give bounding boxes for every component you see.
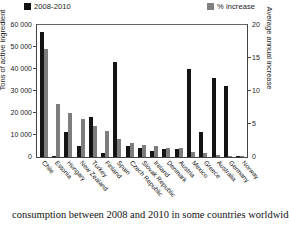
legend-item-tons: 2008-2010 [24,2,71,11]
bar-pct [105,131,109,157]
bar-groups [37,25,247,157]
bar-group [173,25,185,157]
bar-group [148,25,160,157]
bar-group [63,25,75,157]
y-axis-right-title: Average annual increase [265,0,273,107]
bar-pct [166,148,170,157]
legend-label-tons: 2008-2010 [34,2,71,11]
x-axis-labels: ChileEstoniaHungaryNew ZealandTurkeyFinl… [36,159,248,205]
bar-group [161,25,173,157]
bar-pct [203,153,207,157]
bar-pct [179,148,183,157]
bar-group [112,25,124,157]
bar-group [50,25,62,157]
y-tick-right-5: 5 [252,120,274,127]
legend-item-pct: % increase [207,2,255,11]
bar-group [136,25,148,157]
bar-pct [191,152,195,157]
bar-pct [216,155,220,157]
y-tick-left-20000: 20 000 [0,109,32,116]
bar-tons [224,86,228,157]
bar-group [87,25,99,157]
bar-pct [130,143,134,157]
bar-group [38,25,50,157]
bar-pct [240,156,244,157]
bar-group [210,25,222,157]
y-tickmark-right-5 [248,123,251,124]
y-tickmark-right-15 [248,57,251,58]
figure-caption: consumption between 2008 and 2010 in som… [12,208,284,221]
legend-label-pct: % increase [217,2,255,11]
chart-figure: 2008-2010 % increase 60 000 50 000 40 00… [0,0,289,200]
bar-pct [44,49,48,157]
bar-pct [56,104,60,157]
x-axis-label: Chile [41,159,56,175]
bar-tons [187,69,191,157]
chart-legend: 2008-2010 % increase [0,2,289,16]
bar-group [99,25,111,157]
legend-swatch-pct-icon [207,3,214,10]
bar-group [197,25,209,157]
bar-group [185,25,197,157]
bar-group [222,25,234,157]
bar-pct [68,113,72,157]
y-tick-left-10000: 10 000 [0,131,32,138]
y-axis-left-title: Tons of active ingredient [0,0,7,106]
plot-wrapper [36,24,248,158]
bar-pct [154,146,158,157]
y-tick-right-0: 0 [252,153,274,160]
legend-swatch-tons-icon [24,3,31,10]
bar-group [75,25,87,157]
bar-pct [228,156,232,157]
bar-pct [81,119,85,157]
y-tick-left-0: 0 [0,153,32,160]
y-tickmark-right-10 [248,90,251,91]
bar-group [234,25,246,157]
bar-pct [93,126,97,157]
bar-group [124,25,136,157]
bar-pct [142,145,146,157]
bar-tons [212,78,216,157]
bar-pct [117,139,121,157]
